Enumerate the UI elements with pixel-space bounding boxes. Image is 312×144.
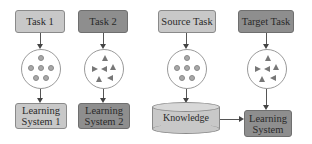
- triangle-icon: [107, 75, 113, 81]
- knowledge-cylinder: Knowledge: [152, 102, 220, 134]
- triangle-icon: [270, 75, 276, 81]
- task-1-label: Task 1: [26, 16, 54, 27]
- learning-system-1-line2: System 1: [22, 116, 61, 127]
- circle-dot-icon: [184, 65, 190, 71]
- learning-system-1-box: Learning System 1: [15, 103, 67, 129]
- source-task-label: Source Task: [161, 16, 212, 27]
- learning-system-line2: System: [253, 124, 284, 135]
- circle-dot-icon: [38, 65, 44, 71]
- circle-dot-icon: [38, 55, 44, 61]
- task-2-label: Task 2: [89, 16, 117, 27]
- triangle-icon: [110, 64, 116, 70]
- triangle-icon: [96, 76, 102, 82]
- triangle-icon: [264, 66, 270, 72]
- triangle-icon: [259, 76, 265, 82]
- cylinder-bottom: [152, 124, 220, 134]
- triangle-icon: [101, 66, 107, 72]
- circle-dot-icon: [48, 65, 54, 71]
- circle-dot-icon: [179, 75, 185, 81]
- triangle-icon: [255, 66, 261, 72]
- task-1-box: Task 1: [15, 10, 65, 33]
- triangle-icon: [273, 64, 279, 70]
- learning-system-line1: Learning: [249, 113, 287, 124]
- arrow-knowledge-to-ls: [220, 119, 240, 120]
- learning-system-box: Learning System: [244, 110, 292, 137]
- source-task-box: Source Task: [158, 10, 216, 33]
- cylinder-top: [152, 102, 220, 112]
- learning-system-2-line2: System 2: [85, 116, 124, 127]
- task-2-box: Task 2: [78, 10, 128, 33]
- circle-dot-icon: [184, 55, 190, 61]
- target-data-circle: [247, 49, 287, 89]
- task-1-data-circle: [21, 49, 61, 89]
- triangle-icon: [265, 55, 271, 61]
- knowledge-label: Knowledge: [152, 112, 220, 123]
- task-2-data-circle: [84, 49, 124, 89]
- triangle-icon: [102, 55, 108, 61]
- circle-dot-icon: [33, 75, 39, 81]
- arrow-target-circle-to-ls: [266, 89, 267, 106]
- circle-dot-icon: [174, 65, 180, 71]
- learning-system-1-line1: Learning: [22, 105, 60, 116]
- triangle-icon: [92, 66, 98, 72]
- circle-dot-icon: [43, 75, 49, 81]
- learning-system-2-line1: Learning: [85, 105, 123, 116]
- source-data-circle: [167, 49, 207, 89]
- circle-dot-icon: [194, 65, 200, 71]
- learning-system-2-box: Learning System 2: [78, 103, 130, 129]
- circle-dot-icon: [189, 75, 195, 81]
- target-task-label: Target Task: [242, 16, 291, 27]
- target-task-box: Target Task: [238, 10, 294, 33]
- circle-dot-icon: [28, 65, 34, 71]
